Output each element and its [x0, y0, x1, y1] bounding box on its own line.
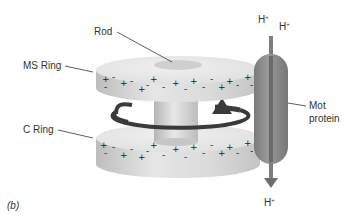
svg-text:+: + — [190, 142, 198, 152]
svg-text:-: - — [130, 76, 133, 86]
svg-text:-: - — [112, 142, 115, 152]
svg-text:-: - — [250, 146, 253, 156]
svg-text:+: + — [138, 152, 146, 162]
svg-text:-: - — [146, 146, 149, 156]
svg-text:-: - — [146, 80, 149, 90]
svg-text:-: - — [162, 150, 165, 160]
svg-text:+: + — [120, 150, 128, 160]
mot-protein-label-line2: protein — [309, 114, 340, 124]
ms-ring-leader-line — [65, 66, 93, 72]
svg-text:-: - — [104, 148, 107, 158]
svg-text:-: - — [210, 74, 213, 84]
rod-label: Rod — [94, 27, 112, 37]
svg-text:-: - — [202, 82, 205, 92]
svg-text:+: + — [120, 78, 128, 88]
svg-text:+: + — [150, 74, 158, 84]
c-ring-label: C Ring — [23, 125, 54, 135]
svg-text:-: - — [202, 148, 205, 158]
proton-label-top-left: H+ — [258, 15, 269, 25]
svg-text:-: - — [184, 84, 187, 94]
svg-text:-: - — [250, 80, 253, 90]
svg-text:-: - — [184, 152, 187, 162]
svg-text:+: + — [218, 82, 226, 92]
flagellar-motor-diagram: +-- +-+ -+- +-+ --+ +-+ -- +-- +-+ -+- +… — [0, 0, 364, 221]
proton-channel — [269, 56, 273, 162]
svg-text:-: - — [112, 72, 115, 82]
rod-top-spot — [154, 60, 202, 70]
svg-text:-: - — [236, 80, 239, 90]
svg-text:+: + — [226, 142, 234, 152]
svg-text:+: + — [150, 140, 158, 150]
ms-ring-label: MS Ring — [23, 61, 61, 71]
svg-text:+: + — [218, 148, 226, 158]
svg-text:+: + — [172, 78, 180, 88]
svg-text:-: - — [104, 82, 107, 92]
svg-text:+: + — [190, 76, 198, 86]
proton-label-bottom: H+ — [264, 198, 275, 208]
proton-label-top-right: H+ — [279, 22, 290, 32]
svg-text:+: + — [138, 84, 146, 94]
panel-label: (b) — [7, 201, 19, 211]
mot-protein-label-line1: Mot — [309, 101, 326, 111]
svg-text:-: - — [130, 144, 133, 154]
c-ring-leader-line — [58, 130, 93, 138]
svg-text:-: - — [210, 140, 213, 150]
proton-outflow-arrow-icon — [264, 178, 278, 188]
svg-text:-: - — [236, 148, 239, 158]
svg-text:-: - — [162, 82, 165, 92]
svg-text:+: + — [172, 144, 180, 154]
mot-protein-leader-line — [288, 103, 306, 106]
svg-text:+: + — [226, 76, 234, 86]
